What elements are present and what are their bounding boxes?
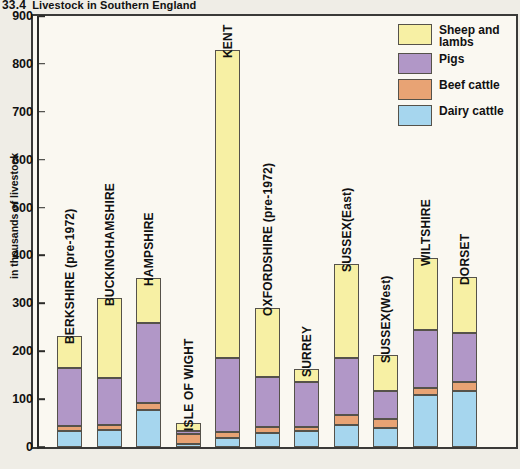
bar-segment-pigs xyxy=(215,358,240,432)
bar-sussex-west[interactable] xyxy=(373,355,398,447)
chart-legend: Sheep and lambs Pigs Beef cattle Dairy c… xyxy=(394,22,516,135)
bar-segment-dairy-cattle xyxy=(255,433,280,447)
bar-segment-pigs xyxy=(294,382,319,427)
bar-segment-dairy-cattle xyxy=(294,431,319,447)
bar-berkshire-pre-1972[interactable] xyxy=(57,336,82,447)
bar-buckinghamshire[interactable] xyxy=(97,298,122,447)
y-tick-label: 100 xyxy=(0,392,33,406)
bar-segment-sheep-and-lambs xyxy=(413,258,438,330)
bar-sussex-east[interactable] xyxy=(334,264,359,447)
legend-swatch-dairy xyxy=(398,105,432,126)
legend-label-line2: lambs xyxy=(439,37,500,49)
bar-segment-beef-cattle xyxy=(215,432,240,438)
bar-segment-pigs xyxy=(413,330,438,388)
bar-kent[interactable] xyxy=(215,50,240,447)
bar-segment-dairy-cattle xyxy=(334,425,359,448)
legend-swatch-pigs xyxy=(398,53,432,74)
y-axis-label: in thousands of livestock xyxy=(8,116,20,316)
bar-segment-dairy-cattle xyxy=(452,391,477,448)
bar-segment-beef-cattle xyxy=(97,425,122,430)
bar-hampshire[interactable] xyxy=(136,278,161,447)
legend-label-line1: Dairy cattle xyxy=(439,106,504,118)
bar-segment-beef-cattle xyxy=(255,427,280,432)
legend-label-line1: Beef cattle xyxy=(439,80,500,92)
bar-segment-sheep-and-lambs xyxy=(452,277,477,334)
x-axis-label: KENT xyxy=(221,24,235,57)
y-tick-label: 400 xyxy=(0,248,33,262)
bar-segment-dairy-cattle xyxy=(373,428,398,447)
bar-segment-beef-cattle xyxy=(413,388,438,395)
bar-segment-beef-cattle xyxy=(373,419,398,428)
legend-label-line1: Pigs xyxy=(439,54,464,66)
x-axis-label: BUCKINGHAMSHIRE xyxy=(103,183,117,306)
bar-segment-dairy-cattle xyxy=(57,431,82,447)
legend-item: Sheep and lambs xyxy=(398,24,516,48)
y-tick-label: 200 xyxy=(0,344,33,358)
y-tick-label: 500 xyxy=(0,201,33,215)
y-tick-label: 0 xyxy=(0,440,33,454)
figure-title-bar: 33.4 Livestock in Southern England xyxy=(0,0,520,13)
bar-segment-dairy-cattle xyxy=(215,438,240,447)
legend-swatch-sheep xyxy=(398,24,432,45)
x-axis-label: SUSSEX(East) xyxy=(340,187,354,271)
legend-swatch-beef xyxy=(398,79,432,100)
bar-segment-sheep-and-lambs xyxy=(255,308,280,377)
bar-segment-pigs xyxy=(97,378,122,425)
x-axis-label: DORSET xyxy=(458,233,472,284)
bar-segment-beef-cattle xyxy=(334,415,359,425)
legend-label-beef: Beef cattle xyxy=(439,79,500,92)
bar-segment-dairy-cattle xyxy=(413,395,438,447)
legend-label-dairy: Dairy cattle xyxy=(439,105,504,118)
page-title: Livestock in Southern England xyxy=(32,0,196,11)
bar-segment-sheep-and-lambs xyxy=(97,298,122,378)
y-tick-label: 700 xyxy=(0,105,33,119)
bar-segment-beef-cattle xyxy=(294,427,319,430)
bar-segment-beef-cattle xyxy=(176,434,201,445)
bar-surrey[interactable] xyxy=(294,369,319,447)
x-axis-label: WILTSHIRE xyxy=(419,199,433,266)
legend-label-pigs: Pigs xyxy=(439,53,464,66)
legend-item: Pigs xyxy=(398,53,516,74)
legend-label-sheep: Sheep and lambs xyxy=(439,24,500,48)
bar-segment-beef-cattle xyxy=(452,382,477,390)
x-axis-label: OXFORDSHIRE (pre-1972) xyxy=(261,163,275,316)
bar-oxfordshire-pre-1972[interactable] xyxy=(255,308,280,447)
figure-container: 33.4 Livestock in Southern England in th… xyxy=(0,0,520,469)
bar-wiltshire[interactable] xyxy=(413,258,438,447)
bar-dorset[interactable] xyxy=(452,277,477,447)
bar-segment-dairy-cattle xyxy=(136,410,161,447)
bar-segment-sheep-and-lambs xyxy=(215,50,240,359)
x-axis-label: HAMPSHIRE xyxy=(142,212,156,286)
x-axis-label: SUSSEX(West) xyxy=(379,275,393,363)
y-tick-label: 600 xyxy=(0,153,33,167)
y-tick-label: 800 xyxy=(0,57,33,71)
legend-item: Dairy cattle xyxy=(398,105,516,126)
bar-segment-pigs xyxy=(334,358,359,415)
bar-segment-pigs xyxy=(57,368,82,426)
bar-segment-pigs xyxy=(373,391,398,419)
y-tick-label: 900 xyxy=(0,9,33,23)
bar-segment-pigs xyxy=(176,431,201,434)
bar-segment-pigs xyxy=(136,323,161,402)
bar-segment-sheep-and-lambs xyxy=(334,264,359,359)
y-tick-label: 300 xyxy=(0,296,33,310)
bar-segment-dairy-cattle xyxy=(176,444,201,447)
x-axis-label: BERKSHIRE (pre-1972) xyxy=(63,209,77,344)
bar-segment-beef-cattle xyxy=(136,403,161,410)
x-axis-label: ISLE OF WIGHT xyxy=(182,338,196,431)
bar-segment-dairy-cattle xyxy=(97,430,122,447)
bar-segment-beef-cattle xyxy=(57,426,82,431)
legend-item: Beef cattle xyxy=(398,79,516,100)
bar-segment-pigs xyxy=(452,333,477,382)
bar-segment-pigs xyxy=(255,377,280,428)
x-axis-label: SURREY xyxy=(300,326,314,377)
